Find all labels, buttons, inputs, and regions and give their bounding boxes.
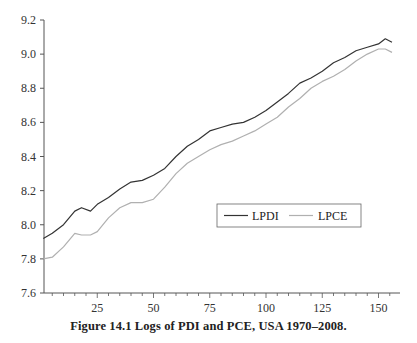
line-chart: 7.67.88.08.28.48.68.89.09.2 255075100125… <box>0 0 417 343</box>
x-tick-label: 100 <box>257 301 275 315</box>
figure-caption: Figure 14.1 Logs of PDI and PCE, USA 197… <box>0 319 417 334</box>
y-tick-label: 8.2 <box>21 184 36 198</box>
y-tick-label: 8.0 <box>21 218 36 232</box>
x-tick-label: 150 <box>370 301 388 315</box>
x-tick-label: 50 <box>148 301 160 315</box>
series-line-lpce <box>43 49 392 259</box>
y-tick-label: 9.0 <box>21 47 36 61</box>
x-tick-label: 25 <box>91 301 103 315</box>
y-tick-label: 9.2 <box>21 13 36 27</box>
legend: LPDI LPCE <box>217 204 361 227</box>
x-tick-label: 125 <box>313 301 331 315</box>
y-tick-label: 7.6 <box>21 286 36 300</box>
y-tick-label: 8.8 <box>21 81 36 95</box>
y-axis: 7.67.88.08.28.48.68.89.09.2 <box>21 13 44 300</box>
y-tick-label: 7.8 <box>21 252 36 266</box>
y-tick-label: 8.6 <box>21 115 36 129</box>
y-tick-label: 8.4 <box>21 150 36 164</box>
legend-label-lpdi: LPDI <box>252 209 279 223</box>
x-tick-label: 75 <box>204 301 216 315</box>
x-axis: 255075100125150 <box>44 293 400 315</box>
legend-label-lpce: LPCE <box>318 209 347 223</box>
